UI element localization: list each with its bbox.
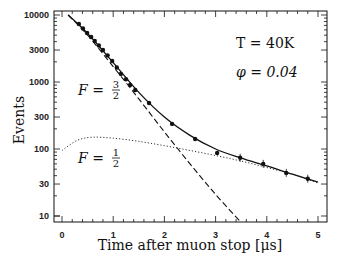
x-axis-title: Time after muon stop [μs] — [98, 237, 282, 253]
data-point — [261, 162, 265, 166]
data-point — [238, 156, 242, 160]
svg-text:3: 3 — [113, 79, 119, 90]
x-tick-label: 0 — [59, 230, 64, 240]
svg-text:F =: F = — [77, 82, 104, 98]
data-point — [97, 43, 101, 47]
y-tick-label: 3000 — [29, 45, 49, 55]
data-point — [105, 53, 109, 57]
svg-text:2: 2 — [113, 158, 119, 169]
data-point — [306, 177, 310, 181]
data-point — [93, 39, 97, 43]
data-point — [170, 122, 174, 126]
data-point — [85, 31, 89, 35]
y-tick-label: 1000 — [29, 77, 49, 87]
data-point — [89, 35, 93, 39]
data-point — [215, 151, 219, 155]
y-tick-label: 100 — [34, 144, 49, 154]
svg-text:F =: F = — [77, 150, 104, 166]
data-point — [101, 48, 105, 52]
data-point — [193, 137, 197, 141]
y-tick-label: 300 — [34, 112, 49, 122]
phi-annotation: φ = 0.04 — [236, 64, 298, 80]
f-3-2-curve — [68, 15, 241, 222]
data-point — [128, 83, 132, 87]
chart: 01234510301003001000300010000 Time after… — [0, 0, 339, 270]
data-point — [119, 72, 123, 76]
data-point — [147, 101, 151, 105]
y-tick-label: 10 — [39, 211, 49, 221]
data-point — [284, 171, 288, 175]
data-point — [110, 59, 114, 63]
f12-label: F = 1 2 — [77, 147, 120, 169]
data-point — [81, 26, 85, 30]
svg-text:2: 2 — [113, 90, 119, 101]
temperature-annotation: T = 40K — [236, 35, 295, 51]
svg-text:1: 1 — [113, 147, 119, 158]
data-point — [115, 65, 119, 69]
y-tick-label: 10000 — [24, 10, 49, 20]
data-point — [133, 88, 137, 92]
data-point — [124, 77, 128, 81]
y-axis-title: Events — [11, 96, 27, 144]
data-point — [77, 22, 81, 26]
x-tick-label: 5 — [315, 230, 320, 240]
f32-label: F = 3 2 — [77, 79, 120, 101]
y-tick-label: 30 — [39, 179, 49, 189]
